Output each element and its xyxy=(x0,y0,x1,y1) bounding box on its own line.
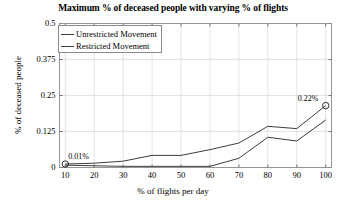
y-tick-label: 0.375 xyxy=(22,54,56,64)
y-tick-label: 0 xyxy=(22,162,56,172)
legend-label: Unrestricted Movement xyxy=(76,30,157,39)
x-tick-label: 60 xyxy=(196,170,224,180)
series-lines xyxy=(65,106,325,167)
series-line-unrestricted xyxy=(65,106,325,164)
x-axis-label: % of flights per day xyxy=(0,186,346,196)
legend-item-restricted: Restricted Movement xyxy=(61,40,149,52)
chart-figure: Maximum % of deceased people with varyin… xyxy=(0,0,346,209)
x-tick-label: 40 xyxy=(138,170,166,180)
legend-label: Restricted Movement xyxy=(76,42,149,51)
x-tick-label: 50 xyxy=(167,170,195,180)
y-tick-label: 0.5 xyxy=(22,18,56,28)
y-tick-label: 0.125 xyxy=(22,126,56,136)
x-tick-label: 70 xyxy=(225,170,253,180)
data-point-annotation: 0.22% xyxy=(298,94,319,103)
x-tick-label: 80 xyxy=(254,170,282,180)
legend-line-icon xyxy=(61,46,74,47)
series-line-restricted xyxy=(65,120,325,166)
x-tick-label: 30 xyxy=(109,170,137,180)
x-tick-label: 20 xyxy=(80,170,108,180)
legend-item-unrestricted: Unrestricted Movement xyxy=(61,28,157,40)
x-tick-label: 100 xyxy=(312,170,340,180)
x-tick-label: 90 xyxy=(283,170,311,180)
legend-line-icon xyxy=(61,34,74,35)
legend: Unrestricted Movement Restricted Movemen… xyxy=(58,25,162,53)
annotation-markers xyxy=(62,102,329,167)
y-tick-label: 0.25 xyxy=(22,90,56,100)
data-point-annotation: 0.01% xyxy=(68,152,89,161)
